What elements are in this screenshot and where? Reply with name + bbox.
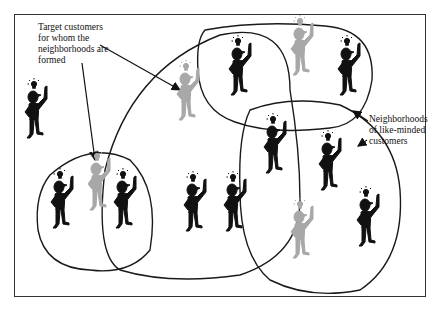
arrow-to-target-left [82, 63, 95, 160]
customer-figure [114, 168, 136, 228]
arrow-to-neighborhood-bottom [358, 140, 367, 146]
customer-figure [264, 113, 286, 173]
neighborhoods-label: Neighborhoods of like-minded customers [369, 114, 428, 147]
neighborhood-diagram: Target customers for whom the neighborho… [0, 0, 441, 310]
customer-figure [319, 130, 341, 190]
customer-figure [338, 35, 360, 95]
target-customer-figure [291, 198, 313, 258]
target-customer-figure [177, 60, 199, 120]
arrow-to-target-top [100, 45, 180, 90]
customer-figure [357, 186, 379, 246]
customer-figure [229, 35, 251, 95]
target-customers-label: Target customers for whom the neighborho… [38, 22, 108, 66]
customer-figure [51, 168, 73, 228]
target-customer-figure [88, 150, 110, 210]
customer-figure [184, 171, 206, 231]
customer-figure [25, 78, 47, 138]
